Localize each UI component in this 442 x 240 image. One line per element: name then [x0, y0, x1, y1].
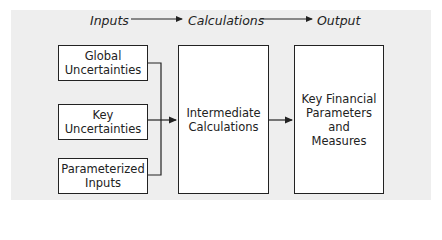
calculations-label: Intermediate Calculations — [186, 106, 260, 134]
calculations-box: Intermediate Calculations — [178, 45, 269, 194]
input-bracket — [148, 63, 161, 175]
input-box-parameterized-inputs: Parameterized Inputs — [58, 158, 148, 194]
input-box-global-uncertainties: Global Uncertainties — [58, 45, 148, 81]
output-box: Key Financial Parameters and Measures — [294, 45, 384, 194]
input-box-key-uncertainties: Key Uncertainties — [58, 104, 148, 140]
output-label: Key Financial Parameters and Measures — [302, 92, 377, 148]
input-label: Global Uncertainties — [65, 49, 142, 77]
input-label: Parameterized Inputs — [61, 162, 144, 190]
input-label: Key Uncertainties — [65, 108, 142, 136]
